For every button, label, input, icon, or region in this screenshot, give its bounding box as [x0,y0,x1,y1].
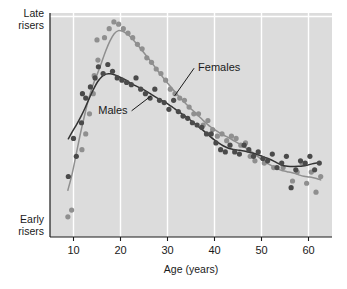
data-point-males-49 [289,185,294,190]
late-risers-label-line1: Late [24,7,45,19]
data-point-males-12 [115,75,120,80]
data-point-females-15 [130,35,135,40]
data-point-males-18 [143,91,148,96]
data-point-females-8 [94,37,99,42]
data-point-females-31 [205,118,210,123]
data-point-females-34 [219,131,224,136]
data-point-females-12 [116,22,121,27]
data-point-females-41 [252,158,257,163]
data-point-males-29 [195,122,200,127]
data-point-females-9 [102,35,107,40]
data-point-males-13 [119,78,124,83]
data-point-males-35 [223,149,228,154]
data-point-males-44 [265,158,270,163]
x-axis-title: Age (years) [164,263,218,275]
data-point-males-5 [80,91,85,96]
data-point-males-9 [101,71,106,76]
data-point-males-10 [105,62,110,67]
data-point-males-23 [166,107,171,112]
data-point-males-40 [246,147,251,152]
data-point-females-22 [163,78,168,83]
data-point-females-17 [140,46,145,51]
data-point-males-22 [162,100,167,105]
x-tick-label-40: 40 [208,244,220,256]
data-point-males-31 [204,131,209,136]
females-label: Females [198,61,241,73]
data-point-males-7 [93,75,98,80]
data-point-males-47 [279,160,284,165]
data-point-males-2 [71,136,76,141]
data-point-males-50 [293,167,298,172]
data-point-males-52 [303,160,308,165]
data-point-males-36 [227,143,232,148]
data-point-males-16 [133,75,138,80]
data-point-males-6 [88,84,93,89]
late-risers-label-line2: risers [18,19,44,31]
x-tick-label-10: 10 [67,244,79,256]
data-point-females-45 [290,178,295,183]
early-risers-label-line1: Early [20,213,45,225]
data-point-males-45 [270,152,275,157]
data-point-males-51 [298,158,303,163]
data-point-males-38 [237,152,242,157]
data-point-females-23 [168,87,173,92]
data-point-males-34 [218,147,223,152]
data-point-males-46 [274,165,279,170]
data-point-females-50 [313,190,318,195]
data-point-females-33 [215,134,220,139]
data-point-males-27 [185,116,190,121]
data-point-males-41 [251,154,256,159]
data-point-females-11 [111,19,116,24]
chronotype-age-chart: 102030405060 Late risers Early risers Ag… [0,0,347,289]
data-point-females-48 [304,181,309,186]
early-risers-label-line2: risers [18,225,44,237]
data-point-males-4 [83,96,88,101]
data-point-males-24 [171,98,176,103]
data-point-males-28 [190,120,195,125]
data-point-males-17 [138,87,143,92]
data-point-males-55 [317,160,322,165]
data-point-females-32 [210,127,215,132]
data-point-females-16 [135,42,140,47]
data-point-males-43 [260,156,265,161]
data-point-males-20 [152,87,157,92]
data-point-males-39 [242,143,247,148]
data-point-females-37 [234,136,239,141]
plot-background [50,13,332,237]
data-point-males-30 [199,125,204,130]
data-point-males-8 [96,64,101,69]
data-point-females-7 [95,57,100,62]
data-point-females-27 [187,104,192,109]
x-tick-layer: 102030405060 [67,237,314,256]
data-point-males-21 [157,98,162,103]
data-point-females-10 [107,26,112,31]
x-tick-label-60: 60 [302,244,314,256]
data-point-females-18 [144,55,149,60]
data-point-females-0 [65,214,70,219]
data-point-females-36 [229,134,234,139]
data-point-females-28 [191,111,196,116]
data-point-males-37 [232,149,237,154]
data-point-males-33 [213,140,218,145]
data-point-females-51 [318,174,323,179]
data-point-males-15 [129,82,134,87]
data-point-females-4 [87,111,92,116]
data-point-females-21 [158,71,163,76]
data-point-females-35 [224,138,229,143]
data-point-males-3 [79,120,84,125]
chart-svg: 102030405060 Late risers Early risers Ag… [0,0,347,289]
data-point-males-54 [312,167,317,172]
data-point-males-42 [256,149,261,154]
data-point-males-0 [66,174,71,179]
data-point-males-25 [176,109,181,114]
data-point-males-26 [180,113,185,118]
x-tick-label-30: 30 [161,244,173,256]
data-point-females-26 [182,98,187,103]
data-point-males-1 [74,154,79,159]
data-point-males-32 [209,131,214,136]
data-point-females-2 [79,147,84,152]
data-point-females-14 [125,31,130,36]
data-point-females-20 [154,66,159,71]
data-point-males-48 [284,154,289,159]
data-point-males-11 [110,69,115,74]
